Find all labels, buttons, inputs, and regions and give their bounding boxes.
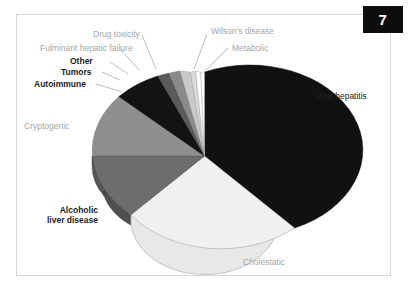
pie-label-fulminant-hepatic-failure: Fulminant hepatic failure <box>40 44 133 54</box>
figure-container: 7 <box>0 0 409 293</box>
leader-line-drug-toxicity <box>142 35 156 69</box>
pie-label-viral-hepatitis: Viral hepatitis <box>316 92 367 102</box>
leader-line-autoimmune <box>96 84 122 92</box>
pie-chart: Viral hepatitis Cholestatic Alcoholic li… <box>0 0 409 293</box>
pie-label-alcoholic-line2: liver disease <box>38 216 98 226</box>
leader-line-metabolic <box>206 48 228 70</box>
leader-line-tumors <box>102 72 120 80</box>
pie-label-alcoholic-liver-disease: Alcoholic liver disease <box>38 206 98 225</box>
pie-label-wilsons-disease: Wilson's disease <box>211 27 274 37</box>
pie-label-drug-toxicity: Drug toxicity <box>93 30 140 40</box>
pie-label-autoimmune: Autoimmune <box>34 80 86 90</box>
pie-label-other: Other <box>70 57 93 67</box>
pie-label-cryptogenic: Cryptogenic <box>24 122 69 132</box>
pie-label-tumors: Tumors <box>61 68 92 78</box>
pie-label-cholestatic: Cholestatic <box>243 258 285 268</box>
leader-line-wilsons <box>194 34 207 69</box>
pie-label-metabolic: Metabolic <box>232 44 268 54</box>
leader-line-other <box>110 62 128 74</box>
